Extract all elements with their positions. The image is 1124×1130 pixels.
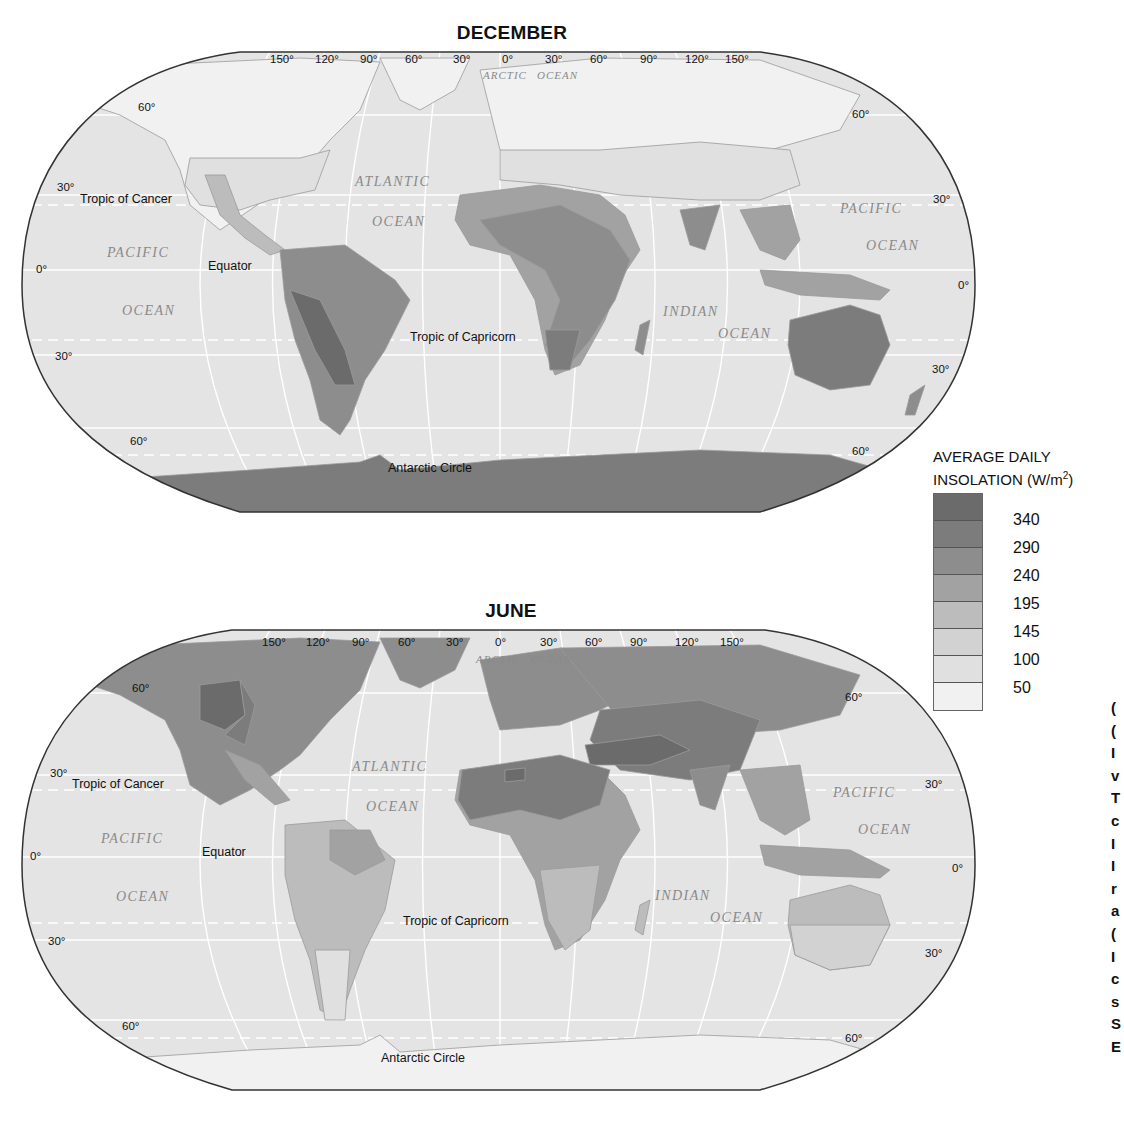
svg-text:OCEAN: OCEAN: [537, 69, 578, 81]
svg-text:0°: 0°: [30, 850, 41, 862]
svg-text:OCEAN: OCEAN: [866, 238, 919, 253]
svg-text:60°: 60°: [845, 1032, 862, 1044]
svg-text:90°: 90°: [352, 636, 369, 648]
svg-text:60°: 60°: [405, 53, 422, 65]
legend-value-240: 240: [1013, 567, 1040, 585]
svg-text:PACIFIC: PACIFIC: [832, 785, 895, 800]
svg-text:60°: 60°: [398, 636, 415, 648]
antarctic-circle-label: Antarctic Circle: [388, 461, 472, 475]
equator-label: Equator: [208, 259, 252, 273]
svg-text:60°: 60°: [845, 691, 862, 703]
legend-value-195: 195: [1013, 595, 1040, 613]
svg-text:60°: 60°: [130, 435, 147, 447]
legend-value-340: 340: [1013, 511, 1040, 529]
svg-text:OCEAN: OCEAN: [116, 889, 169, 904]
svg-text:OCEAN: OCEAN: [531, 653, 572, 665]
svg-text:OCEAN: OCEAN: [366, 799, 419, 814]
tropic-of-capricorn-label: Tropic of Capricorn: [410, 330, 516, 344]
world-map-june: 150° 120° 90° 60° 30° 0° 30° 60° 90° 120…: [0, 620, 1000, 1120]
sahara-core: [505, 768, 525, 782]
svg-text:90°: 90°: [630, 636, 647, 648]
svg-text:30°: 30°: [925, 947, 942, 959]
svg-text:30°: 30°: [446, 636, 463, 648]
svg-text:PACIFIC: PACIFIC: [100, 831, 163, 846]
legend-value-145: 145: [1013, 623, 1040, 641]
svg-text:30°: 30°: [453, 53, 470, 65]
svg-text:OCEAN: OCEAN: [372, 214, 425, 229]
svg-text:30°: 30°: [933, 193, 950, 205]
svg-text:90°: 90°: [360, 53, 377, 65]
tropic-of-cancer-label: Tropic of Cancer: [72, 777, 164, 791]
svg-text:120°: 120°: [685, 53, 709, 65]
svg-text:OCEAN: OCEAN: [710, 910, 763, 925]
svg-text:INDIAN: INDIAN: [662, 304, 719, 319]
map-title-june: JUNE: [485, 600, 536, 622]
svg-text:30°: 30°: [545, 53, 562, 65]
svg-text:120°: 120°: [306, 636, 330, 648]
svg-text:60°: 60°: [132, 682, 149, 694]
svg-text:150°: 150°: [262, 636, 286, 648]
legend-value-100: 100: [1013, 651, 1040, 669]
cropped-side-text: ((IvTcIIra(IcsSE: [1111, 697, 1124, 1059]
svg-text:30°: 30°: [48, 935, 65, 947]
svg-text:OCEAN: OCEAN: [718, 326, 771, 341]
svg-text:ATLANTIC: ATLANTIC: [354, 174, 430, 189]
svg-text:60°: 60°: [138, 101, 155, 113]
antarctic-circle-label: Antarctic Circle: [381, 1051, 465, 1065]
svg-text:120°: 120°: [675, 636, 699, 648]
svg-text:30°: 30°: [932, 363, 949, 375]
svg-text:ARCTIC: ARCTIC: [475, 653, 520, 665]
legend-swatch-3: [934, 575, 982, 602]
tropic-of-capricorn-label: Tropic of Capricorn: [403, 914, 509, 928]
svg-text:60°: 60°: [590, 53, 607, 65]
svg-text:60°: 60°: [122, 1020, 139, 1032]
svg-text:60°: 60°: [852, 108, 869, 120]
legend-title: AVERAGE DAILY INSOLATION (W/m2): [933, 447, 1073, 489]
legend-value-50: 50: [1013, 679, 1031, 697]
svg-text:60°: 60°: [585, 636, 602, 648]
svg-text:0°: 0°: [36, 263, 47, 275]
svg-text:0°: 0°: [958, 279, 969, 291]
legend-value-290: 290: [1013, 539, 1040, 557]
svg-text:PACIFIC: PACIFIC: [106, 245, 169, 260]
svg-text:30°: 30°: [57, 181, 74, 193]
svg-text:0°: 0°: [495, 636, 506, 648]
svg-text:150°: 150°: [720, 636, 744, 648]
svg-text:OCEAN: OCEAN: [122, 303, 175, 318]
svg-text:0°: 0°: [952, 862, 963, 874]
legend-swatch-2: [934, 548, 982, 575]
svg-text:INDIAN: INDIAN: [654, 888, 711, 903]
world-map-december: 150° 120° 90° 60° 30° 0° 30° 60° 90° 120…: [0, 0, 1000, 520]
equator-label: Equator: [202, 845, 246, 859]
svg-text:0°: 0°: [502, 53, 513, 65]
svg-text:30°: 30°: [540, 636, 557, 648]
svg-text:120°: 120°: [315, 53, 339, 65]
legend-swatch-0: [934, 494, 982, 521]
svg-text:90°: 90°: [640, 53, 657, 65]
svg-text:OCEAN: OCEAN: [858, 822, 911, 837]
svg-text:150°: 150°: [725, 53, 749, 65]
svg-text:150°: 150°: [270, 53, 294, 65]
svg-text:30°: 30°: [50, 767, 67, 779]
tropic-of-cancer-label: Tropic of Cancer: [80, 192, 172, 206]
svg-text:60°: 60°: [852, 445, 869, 457]
svg-text:30°: 30°: [55, 350, 72, 362]
svg-text:PACIFIC: PACIFIC: [839, 201, 902, 216]
svg-text:ARCTIC: ARCTIC: [482, 69, 527, 81]
svg-text:30°: 30°: [925, 778, 942, 790]
legend-swatch-1: [934, 521, 982, 548]
svg-text:ATLANTIC: ATLANTIC: [351, 759, 427, 774]
